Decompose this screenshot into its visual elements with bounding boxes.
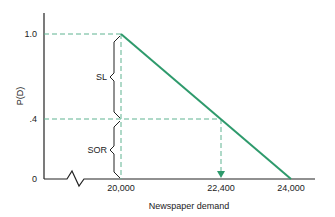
- sor-brace: [110, 121, 120, 178]
- x-tick-22400: 22,400: [207, 183, 235, 193]
- x-tick-20000: 20,000: [107, 183, 135, 193]
- axes: [44, 13, 315, 186]
- reference-lines: [44, 34, 221, 179]
- braces: [110, 36, 120, 178]
- sor-label: SOR: [87, 145, 107, 155]
- x-axis-with-break: [44, 171, 315, 186]
- y-tick-04: .4: [29, 114, 37, 124]
- y-axis-title: P(D): [15, 87, 25, 106]
- arrow-down-icon: [217, 171, 225, 178]
- sl-label: SL: [96, 72, 107, 82]
- y-tick-1: 1.0: [24, 29, 37, 39]
- x-axis-title: Newspaper demand: [149, 201, 230, 211]
- pd-line: [121, 34, 291, 179]
- x-tick-24000: 24,000: [277, 183, 305, 193]
- chart: 1.0 .4 0 20,000 22,400 24,000 SL SOR P(D…: [0, 0, 335, 217]
- sl-brace: [110, 36, 120, 118]
- y-tick-0: 0: [32, 174, 37, 184]
